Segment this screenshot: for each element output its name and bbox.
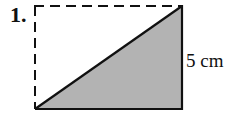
side-length-label: 5 cm [186,50,223,72]
